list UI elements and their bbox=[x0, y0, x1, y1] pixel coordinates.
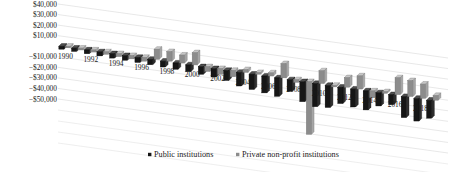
floor-lines bbox=[58, 110, 448, 172]
bar-front-face bbox=[103, 52, 108, 55]
bar-private-2005 bbox=[256, 70, 264, 74]
bar-private-1999 bbox=[179, 52, 187, 63]
bar-front-face bbox=[167, 52, 172, 62]
bar-front-face bbox=[129, 56, 134, 59]
bar-front-face bbox=[78, 48, 83, 50]
bar-side-face bbox=[280, 75, 283, 96]
x-tick-label: 2016 bbox=[388, 100, 403, 109]
legend-label-1: Public institutions bbox=[154, 150, 213, 159]
bar-private-2018 bbox=[420, 82, 428, 99]
bar-chart-3d: $40,000$30,000$20,000$10,000−$10,000−$20… bbox=[0, 0, 454, 172]
y-tick-label: −$20,000 bbox=[29, 63, 57, 72]
x-tick-label: 2008 bbox=[286, 85, 301, 94]
bar-side-face bbox=[197, 50, 200, 65]
bar-private-2012 bbox=[344, 75, 352, 87]
x-tick-label: 2010 bbox=[312, 89, 327, 98]
bar-front-face bbox=[65, 46, 70, 48]
bar-front-face bbox=[84, 50, 89, 54]
y-tick-label: −$30,000 bbox=[29, 73, 57, 82]
x-tick-label: 2000 bbox=[185, 70, 200, 79]
bars-group bbox=[59, 44, 441, 135]
bar-private-1998 bbox=[167, 49, 175, 61]
bar-front-face bbox=[243, 70, 248, 73]
bar-private-2007 bbox=[281, 61, 289, 78]
bar-front-face bbox=[110, 54, 115, 58]
bar-front-face bbox=[319, 71, 324, 84]
bar-side-face bbox=[400, 75, 403, 94]
bar-side-face bbox=[362, 73, 365, 89]
bar-side-face bbox=[426, 82, 429, 99]
chart-container: $40,000$30,000$20,000$10,000−$10,000−$20… bbox=[0, 0, 454, 172]
bar-private-2015 bbox=[382, 89, 390, 93]
bar-private-2010 bbox=[319, 68, 327, 83]
bar-front-face bbox=[135, 57, 140, 62]
bar-front-face bbox=[357, 76, 362, 89]
bar-private-1997 bbox=[154, 47, 162, 60]
bar-private-2013 bbox=[357, 73, 365, 89]
y-tick-label: −$40,000 bbox=[29, 84, 57, 93]
bar-front-face bbox=[59, 46, 64, 49]
x-tick-label: 2012 bbox=[337, 93, 352, 102]
x-tick-label: 1998 bbox=[159, 67, 174, 76]
y-axis-labels: $40,000$30,000$20,000$10,000−$10,000−$20… bbox=[29, 0, 57, 104]
y-tick-label: $20,000 bbox=[33, 21, 57, 30]
bar-front-face bbox=[256, 73, 261, 75]
bar-private-2017 bbox=[408, 78, 416, 96]
x-tick-label: 1990 bbox=[58, 52, 73, 61]
bar-private-2004 bbox=[243, 67, 251, 72]
x-tick-label: 2018 bbox=[413, 104, 428, 113]
bar-front-face bbox=[420, 84, 425, 98]
bar-side-face bbox=[286, 61, 289, 78]
bar-front-face bbox=[91, 50, 96, 52]
bar-front-face bbox=[268, 73, 273, 76]
bar-front-face bbox=[281, 64, 286, 78]
y-tick-label: −$50,000 bbox=[29, 95, 57, 104]
bar-front-face bbox=[179, 55, 184, 63]
bar-side-face bbox=[324, 68, 327, 83]
x-tick-label: 1994 bbox=[109, 59, 124, 68]
bar-front-face bbox=[154, 49, 159, 59]
x-tick-label: 2014 bbox=[362, 96, 377, 105]
x-tick-label: 1992 bbox=[83, 55, 98, 64]
legend: Public institutionsPrivate non-profit in… bbox=[148, 150, 339, 159]
bar-front-face bbox=[141, 57, 146, 61]
y-tick-label: −$10,000 bbox=[29, 52, 57, 61]
bar-front-face bbox=[205, 67, 210, 72]
x-tick-label: 2006 bbox=[261, 82, 276, 91]
x-tick-label: 2002 bbox=[210, 74, 225, 83]
bar-front-face bbox=[344, 78, 349, 88]
bar-front-face bbox=[116, 54, 121, 57]
bar-front-face bbox=[408, 81, 413, 97]
bar-front-face bbox=[382, 92, 387, 94]
bar-front-face bbox=[230, 70, 235, 76]
bar-private-2016 bbox=[395, 75, 403, 94]
gridline-0 bbox=[58, 4, 448, 58]
legend-swatch-1 bbox=[148, 153, 151, 156]
x-tick-label: 1996 bbox=[134, 63, 149, 72]
bar-front-face bbox=[433, 95, 438, 100]
y-tick-label: $10,000 bbox=[33, 31, 57, 40]
bar-front-face bbox=[332, 85, 337, 87]
bar-side-face bbox=[413, 78, 416, 96]
floor-line-2 bbox=[58, 121, 448, 172]
bar-front-face bbox=[395, 78, 400, 95]
bar-front-face bbox=[192, 53, 197, 65]
bar-side-face bbox=[432, 98, 435, 119]
bar-side-face bbox=[406, 94, 409, 118]
bar-private-2006 bbox=[268, 70, 276, 76]
y-tick-label: $40,000 bbox=[33, 0, 57, 9]
legend-label-2: Private non-profit institutions bbox=[242, 150, 339, 159]
x-tick-label: 2004 bbox=[236, 78, 251, 87]
bar-private-2000 bbox=[192, 50, 200, 65]
bar-side-face bbox=[356, 86, 359, 107]
legend-swatch-2 bbox=[236, 153, 239, 156]
y-tick-label: $30,000 bbox=[33, 10, 57, 19]
bar-front-face bbox=[294, 80, 299, 83]
